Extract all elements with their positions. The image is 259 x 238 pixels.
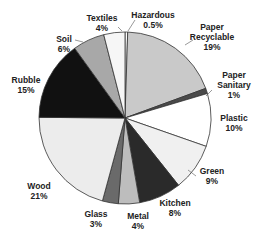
- label-name: Metal: [127, 211, 149, 221]
- label-hazardous: Hazardous0.5%: [131, 10, 174, 30]
- label-name: Paper: [190, 22, 234, 32]
- label-value: 10%: [220, 123, 247, 133]
- label-value: 0.5%: [131, 20, 174, 30]
- label-soil: Soil6%: [56, 34, 72, 54]
- label-value: 1%: [217, 90, 251, 100]
- label-kitchen: Kitchen8%: [159, 198, 190, 218]
- label-value: 4%: [86, 23, 117, 33]
- label-name: Kitchen: [159, 198, 190, 208]
- label-name: Hazardous: [131, 10, 174, 20]
- label-wood: Wood21%: [27, 181, 50, 201]
- leader-line: [75, 40, 83, 42]
- pie-slices: [39, 32, 211, 204]
- label-value: 21%: [27, 191, 50, 201]
- label-name: Glass: [84, 209, 107, 219]
- label-textiles: Textiles4%: [86, 13, 117, 33]
- label-name: Plastic: [220, 113, 247, 123]
- label-value: 19%: [190, 42, 234, 52]
- label-plastic: Plastic10%: [220, 113, 247, 133]
- label-value: 8%: [159, 208, 190, 218]
- label-value: 3%: [84, 219, 107, 229]
- label-value: 4%: [127, 221, 149, 231]
- label-green: Green9%: [200, 166, 225, 186]
- label-paper-sanitary: PaperSanitary1%: [217, 70, 251, 100]
- label-value: 9%: [200, 176, 225, 186]
- label-value: 6%: [56, 44, 72, 54]
- label-name: Soil: [56, 34, 72, 44]
- label-value: 15%: [12, 85, 41, 95]
- leader-line: [118, 27, 122, 31]
- label-paper-recyclable: PaperRecyclable19%: [190, 22, 234, 52]
- label-name: Recyclable: [190, 32, 234, 42]
- label-name: Paper: [217, 70, 251, 80]
- label-name: Rubble: [12, 75, 41, 85]
- label-name: Textiles: [86, 13, 117, 23]
- label-name: Sanitary: [217, 80, 251, 90]
- label-glass: Glass3%: [84, 209, 107, 229]
- label-metal: Metal4%: [127, 211, 149, 231]
- label-name: Green: [200, 166, 225, 176]
- label-rubble: Rubble15%: [12, 75, 41, 95]
- label-name: Wood: [27, 181, 50, 191]
